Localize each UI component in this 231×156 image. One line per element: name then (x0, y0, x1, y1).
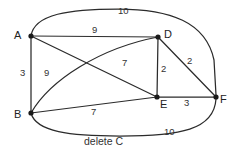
edge-weight-A-F: 10 (118, 6, 129, 16)
node-label-F: F (220, 94, 227, 105)
graph-diagram-canvas: A B D E F 10 9 3 7 9 7 10 2 2 3 delete C (0, 0, 231, 156)
node-label-E: E (160, 99, 167, 110)
edge-weight-B-D: 9 (44, 68, 49, 78)
edge-weight-D-F: 2 (187, 56, 192, 66)
edge-D-E (157, 37, 158, 97)
edge-A-E (31, 36, 157, 97)
edge-B-D (31, 37, 158, 113)
edge-weight-B-E: 7 (91, 107, 96, 117)
edge-weight-D-E: 2 (161, 64, 166, 74)
edge-weight-B-F: 10 (164, 127, 175, 137)
node-dot-E (154, 94, 159, 99)
node-dot-B (28, 110, 33, 115)
node-label-D: D (164, 29, 172, 40)
edge-A-D (31, 36, 158, 37)
edges-group (31, 9, 216, 136)
edge-weight-A-E: 7 (122, 58, 127, 68)
graph-svg (0, 0, 231, 156)
node-label-A: A (14, 30, 21, 41)
edge-weight-E-F: 3 (184, 98, 189, 108)
node-dot-D (155, 34, 160, 39)
node-label-B: B (14, 109, 21, 120)
edge-weight-A-B: 3 (20, 68, 25, 78)
node-dot-F (213, 94, 218, 99)
edge-D-F (158, 37, 216, 97)
edge-weight-A-D: 9 (92, 25, 97, 35)
node-dot-A (28, 33, 33, 38)
diagram-caption: delete C (84, 136, 123, 147)
